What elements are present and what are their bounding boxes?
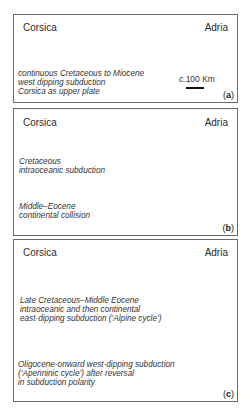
corsica-label: Corsica xyxy=(23,22,57,33)
panel-tag-b: (b) xyxy=(223,223,235,233)
panel-c: Corsica Adria Late Cretaceous–Middle Eoc… xyxy=(13,239,238,402)
caption-b-stage1: Cretaceous intraoceanic subduction xyxy=(19,157,105,175)
adria-label: Adria xyxy=(205,247,228,258)
corsica-label: Corsica xyxy=(23,117,57,128)
caption-c-stage1: Late Cretaceous–Middle Eocene intraocean… xyxy=(20,296,162,324)
corsica-label: Corsica xyxy=(23,247,57,258)
scale-bar xyxy=(186,87,204,89)
panel-tag-a: (a) xyxy=(223,90,234,100)
adria-label: Adria xyxy=(205,117,228,128)
panel-a: Corsica Adria continuous Cretaceous to M… xyxy=(13,14,238,103)
panel-b: Corsica Adria Cretaceous intraoceanic su… xyxy=(13,108,238,236)
caption-b-stage2: Middle–Eocene continental collision xyxy=(19,202,90,220)
scale-label: c.100 Km xyxy=(179,74,215,84)
adria-label: Adria xyxy=(205,22,228,33)
caption-c-stage2: Oligocene-onward west-dipping subduction… xyxy=(18,360,175,388)
caption-a: continuous Cretaceous to Miocene west di… xyxy=(18,69,144,97)
panel-tag-c: (c) xyxy=(223,389,234,399)
